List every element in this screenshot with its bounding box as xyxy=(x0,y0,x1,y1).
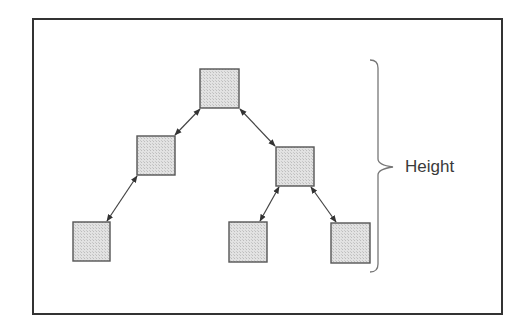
tree-node-left-left xyxy=(73,222,110,261)
edge-root-right xyxy=(240,109,275,146)
edge-right-right-right xyxy=(311,187,336,222)
edge-right-right-left xyxy=(260,187,279,221)
height-label: Height xyxy=(405,157,454,177)
tree-node-right-left xyxy=(229,222,267,262)
tree-node-left xyxy=(137,136,175,175)
height-brace-icon xyxy=(370,60,393,272)
tree-height-diagram: Height xyxy=(0,0,526,330)
tree-nodes xyxy=(73,69,370,263)
tree-node-right xyxy=(276,147,314,186)
tree-node-right-right xyxy=(331,223,370,263)
tree-node-root xyxy=(200,69,239,108)
edge-left-left-left xyxy=(107,176,137,221)
edge-root-left xyxy=(175,109,200,135)
